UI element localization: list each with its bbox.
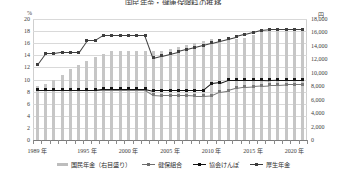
data-point-kenpo-kumiai	[260, 84, 263, 87]
legend-item[interactable]: 協会けんぽ	[193, 160, 239, 169]
data-point-kenpo-kumiai	[218, 90, 221, 93]
bar-kokumin-nenkin	[102, 54, 105, 140]
data-point-kosei-nenkin	[119, 34, 122, 37]
data-point-kosei-nenkin	[276, 28, 279, 31]
legend-label: 国民年金（右目盛り）	[71, 160, 131, 169]
legend-bar-swatch-icon	[57, 163, 68, 166]
x-axis-tick	[99, 140, 100, 144]
data-point-kosei-nenkin	[94, 39, 97, 42]
y2-axis-tick-label: 4,000	[311, 110, 325, 116]
data-point-kyokai-kenpo	[260, 78, 263, 81]
data-point-kosei-nenkin	[235, 35, 238, 38]
data-point-kosei-nenkin	[285, 28, 288, 31]
x-axis-tick	[141, 140, 142, 144]
data-point-kenpo-kumiai	[210, 94, 213, 97]
y-axis-tick-label: 8	[27, 89, 30, 95]
chart-legend: 国民年金（右目盛り）健保組合協会けんぽ厚生年金	[0, 156, 346, 173]
x-axis-tick	[232, 140, 233, 144]
x-axis-tick	[158, 140, 159, 144]
x-axis-tick	[75, 140, 76, 144]
bar-kokumin-nenkin	[94, 57, 97, 140]
x-axis-tick	[33, 140, 34, 144]
data-point-kyokai-kenpo	[268, 78, 271, 81]
legend-item[interactable]: 国民年金（右目盛り）	[57, 160, 131, 169]
legend-item[interactable]: 厚生年金	[250, 160, 290, 169]
plot-area: 0246810121416182002,0004,0006,0008,00010…	[33, 19, 307, 141]
data-point-kosei-nenkin	[85, 39, 88, 42]
data-point-kenpo-kumiai	[152, 93, 155, 96]
y2-axis-tick-label: 18,000	[311, 16, 328, 22]
x-axis-tick	[257, 140, 258, 144]
x-axis-tick	[116, 140, 117, 144]
y-axis-tick-label: 18	[24, 28, 30, 34]
y-axis-tick-label: 10	[24, 77, 30, 83]
x-axis-tick-label: 2015 年	[243, 146, 263, 155]
x-axis-tick	[182, 140, 183, 144]
y2-axis-tick-label: 10,000	[311, 70, 328, 76]
data-point-kosei-nenkin	[210, 41, 213, 44]
y-axis-tick-label: 14	[24, 52, 30, 58]
x-axis-tick	[241, 140, 242, 144]
bar-kokumin-nenkin	[110, 51, 113, 140]
data-point-kosei-nenkin	[193, 46, 196, 49]
legend-label: 健保組合	[158, 160, 182, 169]
gridline	[33, 19, 307, 20]
data-point-kosei-nenkin	[301, 28, 304, 31]
y-axis-tick-label: 20	[24, 16, 30, 22]
x-axis-tick	[274, 140, 275, 144]
data-point-kyokai-kenpo	[44, 88, 47, 91]
data-point-kosei-nenkin	[44, 52, 47, 55]
y2-axis-tick-label: 8,000	[311, 83, 325, 89]
x-axis-tick	[224, 140, 225, 144]
data-point-kyokai-kenpo	[293, 78, 296, 81]
bar-kokumin-nenkin	[243, 38, 246, 141]
data-point-kosei-nenkin	[152, 56, 155, 59]
data-point-kosei-nenkin	[102, 34, 105, 37]
legend-item[interactable]: 健保組合	[142, 160, 182, 169]
legend-label: 協会けんぽ	[209, 160, 239, 169]
x-axis-tick	[41, 140, 42, 144]
x-axis-tick-label: 2005 年	[160, 146, 180, 155]
data-point-kosei-nenkin	[69, 51, 72, 54]
data-point-kyokai-kenpo	[77, 88, 80, 91]
data-point-kosei-nenkin	[110, 34, 113, 37]
data-point-kyokai-kenpo	[301, 78, 304, 81]
data-point-kosei-nenkin	[252, 31, 255, 34]
gridline	[33, 43, 307, 44]
bar-kokumin-nenkin	[77, 65, 80, 140]
data-point-kyokai-kenpo	[94, 88, 97, 91]
data-point-kyokai-kenpo	[110, 87, 113, 90]
data-point-kyokai-kenpo	[144, 87, 147, 90]
data-point-kosei-nenkin	[61, 51, 64, 54]
x-axis-tick-label: 2020 年	[285, 146, 305, 155]
data-point-kyokai-kenpo	[127, 87, 130, 90]
x-axis-tick	[216, 140, 217, 144]
data-point-kosei-nenkin	[52, 52, 55, 55]
data-point-kyokai-kenpo	[169, 89, 172, 92]
x-axis-tick	[149, 140, 150, 144]
data-point-kyokai-kenpo	[185, 89, 188, 92]
x-axis-tick	[83, 140, 84, 144]
data-point-kyokai-kenpo	[85, 88, 88, 91]
data-point-kosei-nenkin	[160, 54, 163, 57]
x-axis-tick	[91, 140, 92, 144]
y2-axis-tick-label: 14,000	[311, 43, 328, 49]
data-point-kenpo-kumiai	[202, 94, 205, 97]
x-axis-tick-label: 1995 年	[77, 146, 97, 155]
bar-kokumin-nenkin	[85, 61, 88, 140]
bar-kokumin-nenkin	[119, 51, 122, 140]
x-axis-tick-label: 1989 年	[27, 146, 47, 155]
bar-kokumin-nenkin	[144, 51, 147, 140]
x-axis-tick	[174, 140, 175, 144]
data-point-kenpo-kumiai	[235, 86, 238, 89]
data-point-kosei-nenkin	[202, 44, 205, 47]
y-axis-tick-label: 12	[24, 64, 30, 70]
data-point-kosei-nenkin	[144, 34, 147, 37]
bar-kokumin-nenkin	[185, 45, 188, 140]
data-point-kyokai-kenpo	[152, 89, 155, 92]
bar-kokumin-nenkin	[135, 51, 138, 140]
legend-line-marker-icon	[142, 162, 155, 167]
legend-line-marker-icon	[193, 162, 206, 167]
x-axis-tick	[199, 140, 200, 144]
data-point-kenpo-kumiai	[227, 89, 230, 92]
